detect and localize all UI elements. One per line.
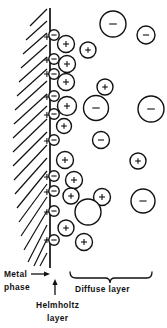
- metal-hatching: [13, 9, 47, 266]
- metal-phase-label-line1: Metal: [4, 269, 27, 279]
- helmholtz-layer-label-line2: layer: [47, 313, 69, 323]
- solvent-molecule-group: [75, 199, 101, 225]
- metal-arrow-icon: [31, 271, 50, 276]
- diffuse-brace-icon: [70, 272, 152, 283]
- double-layer-figure: Metal phase Diffuse layer Helmholtz laye…: [0, 0, 167, 328]
- diffuse-layer-label: Diffuse layer: [75, 284, 130, 294]
- helmholtz-arrow-icon: [52, 279, 57, 295]
- helmholtz-layer-label-line1: Helmholtz: [36, 300, 79, 310]
- double-layer-diagram: Metal phase Diffuse layer Helmholtz laye…: [0, 0, 167, 328]
- diffuse-anion-group: [84, 11, 165, 213]
- metal-phase-label-line2: phase: [4, 282, 30, 292]
- helmholtz-anion-group: [49, 30, 59, 245]
